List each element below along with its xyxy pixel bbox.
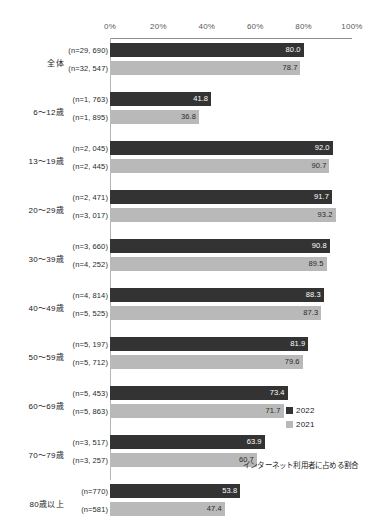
sample-size-label: (n=5, 712) xyxy=(62,354,108,370)
bar-row: (n=4, 252)89.5 xyxy=(0,256,379,272)
bar-2022 xyxy=(110,190,332,204)
bar-value-label: 88.3 xyxy=(296,287,321,301)
bar-row: (n=5, 863)71.7 xyxy=(0,403,379,419)
bar-row: (n=29, 690)80.0 xyxy=(0,42,379,58)
x-axis-tick-100: 100% xyxy=(341,22,362,31)
bar-2022 xyxy=(110,337,308,351)
legend-label: 2021 xyxy=(296,420,315,429)
bar-value-label: 91.7 xyxy=(304,189,329,203)
bar-group: 13～19歳(n=2, 045)92.0(n=2, 445)90.7 xyxy=(0,136,379,185)
bar-2021 xyxy=(110,306,321,320)
bar-2021 xyxy=(110,257,327,271)
sample-size-label: (n=5, 863) xyxy=(62,403,108,419)
bar-group: 6～12歳(n=1, 763)41.8(n=1, 895)36.8 xyxy=(0,87,379,136)
sample-size-label: (n=770) xyxy=(62,483,108,499)
sample-size-label: (n=5, 525) xyxy=(62,305,108,321)
bar-group: 70～79歳(n=3, 517)63.9(n=3, 257)60.7 xyxy=(0,430,379,479)
bar-value-label: 93.2 xyxy=(308,207,333,221)
sample-size-label: (n=581) xyxy=(62,501,108,517)
sample-size-label: (n=29, 690) xyxy=(62,42,108,58)
bar-2021 xyxy=(110,208,336,222)
sample-size-label: (n=5, 197) xyxy=(62,336,108,352)
bar-group: 60～69歳(n=5, 453)73.4(n=5, 863)71.7 xyxy=(0,381,379,430)
bar-value-label: 79.6 xyxy=(275,354,300,368)
bar-row: (n=2, 445)90.7 xyxy=(0,158,379,174)
legend-swatch-icon xyxy=(286,421,293,428)
sample-size-label: (n=32, 547) xyxy=(62,60,108,76)
bar-row: (n=5, 197)81.9 xyxy=(0,336,379,352)
x-axis-tick-40: 40% xyxy=(198,22,215,31)
bar-value-label: 36.8 xyxy=(171,109,196,123)
bar-value-label: 90.7 xyxy=(301,158,326,172)
bar-2022 xyxy=(110,43,304,57)
x-axis-tick-20: 20% xyxy=(150,22,167,31)
bar-group: 30～39歳(n=3, 660)90.8(n=4, 252)89.5 xyxy=(0,234,379,283)
bar-group: 20～29歳(n=2, 471)91.7(n=3, 017)93.2 xyxy=(0,185,379,234)
sample-size-label: (n=4, 814) xyxy=(62,287,108,303)
bar-value-label: 90.8 xyxy=(302,238,327,252)
sample-size-label: (n=1, 895) xyxy=(62,109,108,125)
bar-value-label: 53.8 xyxy=(212,483,237,497)
x-axis-tick-labels: 0%20%40%60%80%100% xyxy=(0,22,379,36)
legend-item-2021: 2021 xyxy=(286,418,315,430)
bar-group: 40～49歳(n=4, 814)88.3(n=5, 525)87.3 xyxy=(0,283,379,332)
bar-value-label: 92.0 xyxy=(305,140,330,154)
sample-size-label: (n=3, 517) xyxy=(62,434,108,450)
sample-size-label: (n=2, 045) xyxy=(62,140,108,156)
bar-row: (n=1, 763)41.8 xyxy=(0,91,379,107)
bar-value-label: 80.0 xyxy=(276,42,301,56)
bar-row: (n=5, 453)73.4 xyxy=(0,385,379,401)
bar-row: (n=5, 525)87.3 xyxy=(0,305,379,321)
bar-value-label: 71.7 xyxy=(256,403,281,417)
bar-row: (n=32, 547)78.7 xyxy=(0,60,379,76)
bar-group: 80歳以上(n=770)53.8(n=581)47.4 xyxy=(0,479,379,520)
bar-value-label: 63.9 xyxy=(237,434,262,448)
sample-size-label: (n=5, 453) xyxy=(62,385,108,401)
bar-row: (n=4, 814)88.3 xyxy=(0,287,379,303)
bar-value-label: 73.4 xyxy=(260,385,285,399)
x-axis-tick-0: 0% xyxy=(104,22,116,31)
sample-size-label: (n=1, 763) xyxy=(62,91,108,107)
bar-value-label: 81.9 xyxy=(280,336,305,350)
chart-annotation: インターネット利用者に占める割合 xyxy=(243,459,358,470)
bar-value-label: 87.3 xyxy=(293,305,318,319)
legend-item-2022: 2022 xyxy=(286,404,315,416)
bar-row: (n=2, 471)91.7 xyxy=(0,189,379,205)
sample-size-label: (n=3, 257) xyxy=(62,452,108,468)
bar-value-label: 41.8 xyxy=(183,91,208,105)
bar-value-label: 47.4 xyxy=(197,501,222,515)
sample-size-label: (n=2, 445) xyxy=(62,158,108,174)
bar-row: (n=5, 712)79.6 xyxy=(0,354,379,370)
sample-size-label: (n=3, 660) xyxy=(62,238,108,254)
bar-row: (n=581)47.4 xyxy=(0,501,379,517)
sample-size-label: (n=4, 252) xyxy=(62,256,108,272)
bar-2022 xyxy=(110,288,324,302)
bar-2021 xyxy=(110,159,329,173)
bar-group: 全体(n=29, 690)80.0(n=32, 547)78.7 xyxy=(0,38,379,87)
legend-swatch-icon xyxy=(286,407,293,414)
bar-row: (n=770)53.8 xyxy=(0,483,379,499)
bar-2022 xyxy=(110,141,333,155)
chart-legend: 20222021 xyxy=(286,404,315,432)
bar-2022 xyxy=(110,239,330,253)
bar-row: (n=3, 660)90.8 xyxy=(0,238,379,254)
bar-value-label: 89.5 xyxy=(299,256,324,270)
sample-size-label: (n=2, 471) xyxy=(62,189,108,205)
x-axis-tick-80: 80% xyxy=(295,22,312,31)
bar-group: 50～59歳(n=5, 197)81.9(n=5, 712)79.6 xyxy=(0,332,379,381)
bar-row: (n=2, 045)92.0 xyxy=(0,140,379,156)
bar-value-label: 78.7 xyxy=(272,60,297,74)
bar-row: (n=3, 017)93.2 xyxy=(0,207,379,223)
bar-groups: 全体(n=29, 690)80.0(n=32, 547)78.76～12歳(n=… xyxy=(0,38,379,520)
legend-label: 2022 xyxy=(296,406,315,415)
bar-row: (n=3, 517)63.9 xyxy=(0,434,379,450)
sample-size-label: (n=3, 017) xyxy=(62,207,108,223)
x-axis-tick-60: 60% xyxy=(247,22,264,31)
bar-row: (n=1, 895)36.8 xyxy=(0,109,379,125)
